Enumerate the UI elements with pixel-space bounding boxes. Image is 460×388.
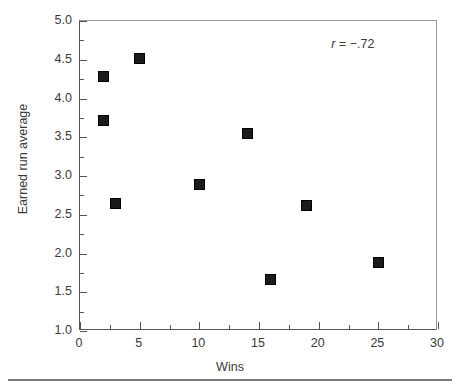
y-axis-tick-major bbox=[80, 60, 87, 61]
x-axis-tick-major bbox=[319, 322, 320, 329]
x-axis-tick-label: 15 bbox=[251, 336, 265, 350]
data-point-marker bbox=[194, 179, 205, 190]
y-axis-tick-label: 3.0 bbox=[28, 168, 72, 182]
y-axis-tick-major bbox=[80, 99, 87, 100]
correlation-operator: = bbox=[335, 37, 349, 51]
x-axis-tick-label: 30 bbox=[430, 336, 444, 350]
y-axis-tick-major bbox=[80, 137, 87, 138]
correlation-annotation: r = −.72 bbox=[331, 37, 374, 51]
x-axis-tick-major bbox=[199, 322, 200, 329]
x-axis-title: Wins bbox=[0, 360, 460, 374]
y-axis-tick-minor bbox=[80, 157, 84, 158]
y-axis-tick-minor bbox=[80, 118, 84, 119]
y-axis-tick-major bbox=[80, 176, 87, 177]
x-axis-tick-major bbox=[438, 322, 439, 329]
bottom-divider-rule bbox=[8, 379, 452, 381]
y-axis-tick-major bbox=[80, 254, 87, 255]
y-axis-tick-label: 1.0 bbox=[28, 323, 72, 337]
y-axis-tick-minor bbox=[80, 40, 84, 41]
data-point-marker bbox=[110, 198, 121, 209]
y-axis-tick-label: 2.0 bbox=[28, 246, 72, 260]
plot-area bbox=[80, 21, 436, 329]
data-point-marker bbox=[301, 200, 312, 211]
y-axis-tick-label: 4.5 bbox=[28, 52, 72, 66]
y-axis-tick-minor bbox=[80, 273, 84, 274]
x-axis-tick-label: 0 bbox=[76, 336, 83, 350]
x-axis-tick-major bbox=[140, 322, 141, 329]
x-axis-tick-minor bbox=[170, 325, 171, 329]
x-axis-tick-major bbox=[378, 322, 379, 329]
x-axis-tick-label: 20 bbox=[311, 336, 325, 350]
correlation-value: −.72 bbox=[350, 37, 375, 51]
x-axis-tick-major bbox=[259, 322, 260, 329]
y-axis-tick-label: 5.0 bbox=[28, 13, 72, 27]
x-axis-tick-minor bbox=[110, 325, 111, 329]
plot-frame bbox=[79, 20, 437, 330]
x-axis-tick-label: 5 bbox=[135, 336, 142, 350]
x-axis-tick-minor bbox=[408, 325, 409, 329]
scatter-plot-figure: Earned run average Wins r = −.72 0510152… bbox=[0, 0, 460, 388]
data-point-marker bbox=[98, 71, 109, 82]
y-axis-tick-major bbox=[80, 21, 87, 22]
data-point-marker bbox=[373, 257, 384, 268]
x-axis-tick-major bbox=[80, 322, 81, 329]
x-axis-tick-minor bbox=[349, 325, 350, 329]
y-axis-tick-minor bbox=[80, 234, 84, 235]
y-axis-tick-major bbox=[80, 292, 87, 293]
data-point-marker bbox=[134, 53, 145, 64]
x-axis-tick-minor bbox=[289, 325, 290, 329]
y-axis-tick-major bbox=[80, 331, 87, 332]
y-axis-tick-label: 3.5 bbox=[28, 129, 72, 143]
data-point-marker bbox=[242, 128, 253, 139]
y-axis-tick-major bbox=[80, 215, 87, 216]
y-axis-tick-minor bbox=[80, 312, 84, 313]
x-axis-tick-minor bbox=[229, 325, 230, 329]
y-axis-tick-minor bbox=[80, 79, 84, 80]
y-axis-tick-label: 1.5 bbox=[28, 284, 72, 298]
y-axis-tick-label: 4.0 bbox=[28, 91, 72, 105]
y-axis-tick-minor bbox=[80, 195, 84, 196]
x-axis-tick-label: 25 bbox=[370, 336, 384, 350]
data-point-marker bbox=[98, 115, 109, 126]
data-point-marker bbox=[265, 274, 276, 285]
x-axis-tick-label: 10 bbox=[191, 336, 205, 350]
y-axis-tick-label: 2.5 bbox=[28, 207, 72, 221]
